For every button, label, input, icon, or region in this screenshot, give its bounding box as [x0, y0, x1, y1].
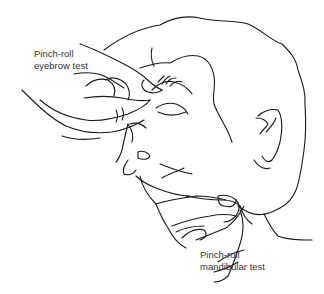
head-outline [104, 17, 306, 214]
mandibular-test-label: Pinch-roll mandibular test [200, 249, 265, 273]
pinch-roll-illustration: Pinch-roll eyebrow test Pinch-roll mandi… [0, 0, 324, 294]
eyebrow-label-line2: eyebrow test [34, 60, 88, 72]
ear [254, 109, 282, 168]
line-drawing [0, 0, 324, 294]
mandibular-label-line1: Pinch-roll [200, 249, 265, 261]
eyebrow-label-line1: Pinch-roll [34, 48, 88, 60]
mandibular-label-line2: mandibular test [200, 261, 265, 273]
eyebrow-test-label: Pinch-roll eyebrow test [34, 48, 88, 72]
